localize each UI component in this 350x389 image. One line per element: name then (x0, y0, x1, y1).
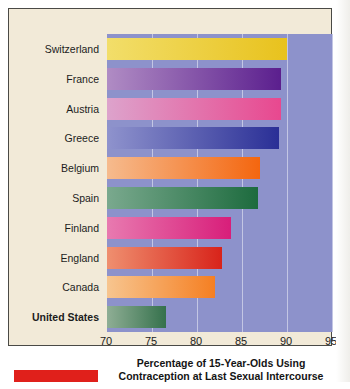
bar-rows (107, 34, 332, 332)
chart-figure: SwitzerlandFranceAustriaGreeceBelgiumSpa… (0, 0, 350, 389)
bar-row (107, 68, 332, 90)
x-axis-title: Percentage of 15-Year-Olds Using Contrac… (107, 357, 335, 383)
bar-united-states (107, 306, 166, 328)
chart-panel: SwitzerlandFranceAustriaGreeceBelgiumSpa… (8, 8, 332, 346)
bar-row (107, 247, 332, 269)
bar-england (107, 247, 222, 269)
bar-france (107, 68, 281, 90)
category-label-austria: Austria (0, 98, 99, 120)
bar-belgium (107, 157, 260, 179)
bar-row (107, 98, 332, 120)
x-axis-title-line1: Percentage of 15-Year-Olds Using (107, 357, 335, 370)
plot-area (107, 34, 332, 332)
bar-row (107, 217, 332, 239)
bar-switzerland (107, 38, 287, 60)
category-label-switzerland: Switzerland (0, 38, 99, 60)
bar-row (107, 127, 332, 149)
bar-austria (107, 98, 281, 120)
x-tick-label: 75 (145, 335, 157, 347)
category-label-spain: Spain (0, 187, 99, 209)
x-tick-label: 85 (235, 335, 247, 347)
category-label-greece: Greece (0, 127, 99, 149)
category-label-finland: Finland (0, 217, 99, 239)
gridline (332, 34, 333, 332)
bar-spain (107, 187, 258, 209)
bar-greece (107, 127, 279, 149)
x-tick-label: 90 (280, 335, 292, 347)
bar-row (107, 276, 332, 298)
red-accent-tab (14, 370, 98, 382)
category-label-belgium: Belgium (0, 157, 99, 179)
bar-canada (107, 276, 215, 298)
bar-row (107, 38, 332, 60)
x-tick-label: 80 (190, 335, 202, 347)
category-label-france: France (0, 68, 99, 90)
bar-row (107, 306, 332, 328)
bar-finland (107, 217, 231, 239)
category-label-united-states: United States (0, 306, 99, 328)
category-label-canada: Canada (0, 276, 99, 298)
category-label-england: England (0, 247, 99, 269)
page-edge-right (336, 0, 350, 389)
x-tick-label: 70 (100, 335, 112, 347)
bar-row (107, 157, 332, 179)
page-edge-bottom (0, 382, 350, 389)
bar-row (107, 187, 332, 209)
